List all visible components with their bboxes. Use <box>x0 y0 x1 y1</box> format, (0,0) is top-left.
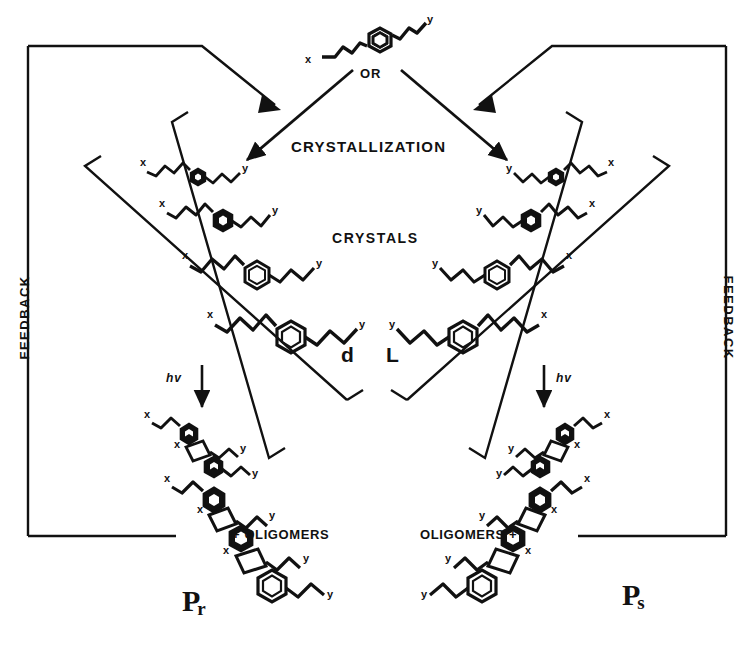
svg-text:x: x <box>197 503 204 515</box>
crystal-stack-right: x y x y x y x y <box>389 156 615 353</box>
svg-text:y: y <box>359 318 366 330</box>
photolysis-label-left: hv <box>166 371 182 385</box>
svg-text:x: x <box>159 197 166 209</box>
stack-right-unit-1: x y <box>506 156 615 185</box>
svg-text:y: y <box>240 442 247 454</box>
polymer-label-pr: Pr <box>182 584 206 620</box>
svg-text:y: y <box>252 467 259 479</box>
crystal-stack-left: x y x y x y x y <box>140 156 366 353</box>
svg-text:y: y <box>316 257 323 269</box>
polymer-label-ps: Ps <box>622 578 645 614</box>
feedback-label-left: FEEDBACK <box>17 276 32 360</box>
starting-monomer: x y <box>305 13 434 65</box>
svg-text:y: y <box>327 588 334 600</box>
svg-text:x: x <box>566 249 573 261</box>
polymer-product-right: x x y y x x y x y y <box>421 408 611 602</box>
crystal-bracket-left <box>85 112 363 458</box>
svg-text:y: y <box>303 552 310 564</box>
svg-text:y: y <box>506 162 513 174</box>
chirality-label-l: L <box>386 343 400 367</box>
chirality-label-d: d <box>341 343 355 367</box>
svg-text:x: x <box>574 438 581 450</box>
svg-text:y: y <box>389 318 396 330</box>
svg-text:y: y <box>269 509 276 521</box>
polymer-label-pr-sub: r <box>197 598 205 619</box>
feedback-loop-right <box>479 46 726 536</box>
crystallization-label: CRYSTALLIZATION <box>291 138 446 155</box>
oligomers-label-left: + OLIGOMERS <box>232 527 329 542</box>
svg-text:y: y <box>508 442 515 454</box>
polymer-left-dimer-1: x x y y <box>144 408 259 479</box>
svg-text:y: y <box>496 467 503 479</box>
stack-right-unit-2: x y <box>476 197 596 231</box>
svg-text:x: x <box>164 472 171 484</box>
svg-text:x: x <box>551 503 558 515</box>
svg-text:x: x <box>589 197 596 209</box>
crystals-label: CRYSTALS <box>332 230 419 246</box>
svg-text:x: x <box>525 544 532 556</box>
stack-left-unit-1: x y <box>140 156 249 185</box>
svg-text:y: y <box>432 257 439 269</box>
svg-text:x: x <box>144 408 151 420</box>
svg-text:x: x <box>182 249 189 261</box>
feedback-label-right: FEEDBACK <box>721 276 736 360</box>
crystal-bracket-right <box>391 112 669 458</box>
svg-text:x: x <box>608 156 615 168</box>
svg-text:x: x <box>174 438 181 450</box>
svg-text:x: x <box>207 308 214 320</box>
monomer-label-y: y <box>427 13 434 25</box>
or-label: OR <box>360 66 382 81</box>
monomer-label-x: x <box>305 53 312 65</box>
svg-text:x: x <box>140 156 147 168</box>
feedback-loop-left <box>28 46 275 536</box>
scheme-drawing: x y x y x <box>0 0 753 665</box>
svg-text:x: x <box>223 544 230 556</box>
stack-right-unit-3: x y <box>432 249 573 289</box>
feedback-arrowhead-right <box>473 95 496 113</box>
stack-left-unit-3: x y <box>182 249 323 289</box>
svg-text:y: y <box>476 204 483 216</box>
stack-left-unit-2: x y <box>159 197 279 231</box>
polymer-right-dimer-1: x x y y <box>496 408 611 479</box>
svg-text:y: y <box>445 552 452 564</box>
svg-text:x: x <box>541 308 548 320</box>
svg-text:y: y <box>272 204 279 216</box>
svg-text:x: x <box>584 472 591 484</box>
photolysis-label-right: hv <box>556 371 572 385</box>
svg-text:y: y <box>479 509 486 521</box>
figure-canvas: x y x y x <box>0 0 753 665</box>
svg-text:y: y <box>421 588 428 600</box>
polymer-label-ps-sub: s <box>637 592 644 613</box>
oligomers-label-right: OLIGOMERS + <box>420 527 517 542</box>
polymer-product-left: x x y y x x y x y y <box>144 408 334 602</box>
svg-text:y: y <box>242 162 249 174</box>
feedback-arrowhead-left <box>258 95 281 113</box>
benzene-ring <box>369 28 391 52</box>
svg-text:x: x <box>604 408 611 420</box>
